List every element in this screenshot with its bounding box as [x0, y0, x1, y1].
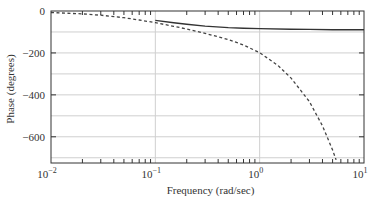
y-tick-label: 0 [40, 5, 46, 17]
y-axis-title: Phase (degrees) [4, 54, 17, 124]
x-tick-label: 100 [248, 166, 263, 180]
y-tick-label: −600 [22, 131, 45, 143]
axis-ticks [51, 11, 364, 163]
phase-plot: 0−200−400−600 10−210−1100101 Frequency (… [0, 0, 378, 203]
plot-frame [51, 11, 364, 163]
series-lines [51, 13, 364, 160]
x-tick-labels: 10−210−1100101 [37, 166, 367, 180]
y-tick-label: −400 [22, 89, 45, 101]
x-axis-title: Frequency (rad/sec) [167, 184, 255, 197]
y-tick-labels: 0−200−400−600 [22, 5, 45, 143]
dashed-curve [51, 13, 336, 160]
x-tick-label: 10−1 [142, 166, 162, 180]
x-tick-label: 101 [353, 166, 368, 180]
grid-lines [51, 11, 364, 163]
x-tick-label: 10−2 [37, 166, 57, 180]
y-tick-label: −200 [22, 47, 45, 59]
